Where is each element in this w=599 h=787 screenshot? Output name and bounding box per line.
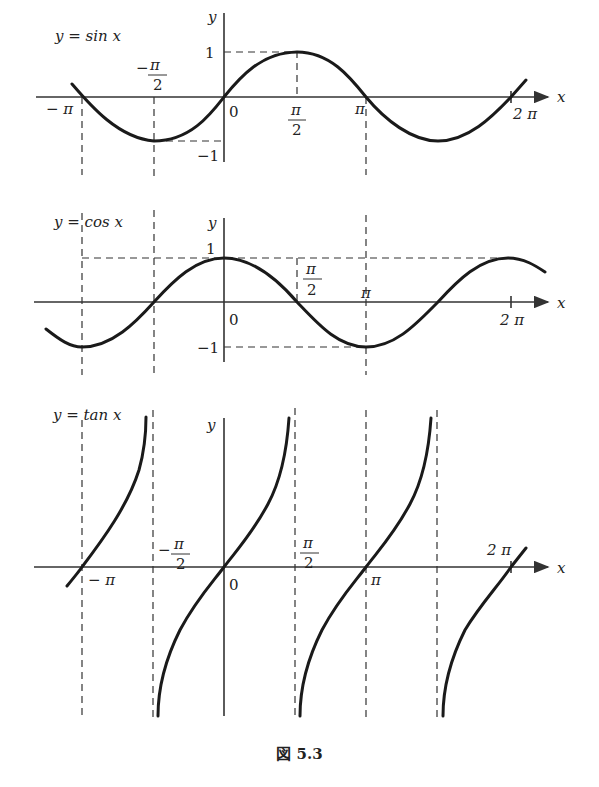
svg-text:π: π: [173, 535, 185, 553]
cos-ytick-neg1: −1: [197, 339, 219, 357]
sin-xtick-0: 0: [229, 103, 239, 121]
tan-xtick-pi: π: [370, 571, 382, 589]
svg-text:π: π: [290, 101, 302, 119]
sin-xtick-neg-half-pi: − π 2: [136, 56, 167, 94]
svg-text:π: π: [302, 534, 314, 552]
tan-x-label: x: [557, 559, 566, 577]
cos-x-label: x: [557, 294, 566, 312]
cos-title: y = cos x: [53, 213, 123, 231]
svg-text:−: −: [136, 59, 149, 77]
svg-text:2: 2: [153, 76, 163, 94]
tan-branch-4: [443, 548, 526, 716]
sin-title: y = sin x: [54, 27, 122, 45]
cos-xtick-2pi: 2 π: [499, 311, 525, 329]
svg-text:2: 2: [307, 281, 317, 299]
svg-text:π: π: [149, 56, 161, 74]
sin-xtick-half-pi: π 2: [288, 101, 306, 139]
figure-caption: 図 5.3: [0, 742, 599, 763]
cos-xtick-half-pi: π 2: [303, 260, 322, 299]
cos-xtick-0: 0: [229, 311, 239, 329]
trig-figure: y = sin x y x 1 −1 0 − π π 2 π − π 2 π 2: [0, 0, 599, 787]
sin-xtick-neg-pi: − π: [46, 100, 74, 118]
cos-xtick-pi: π: [360, 284, 372, 302]
tan-xtick-0: 0: [229, 576, 239, 594]
cos-panel: y = cos x y x 1 −1 0 π 2 π π 2: [34, 210, 566, 375]
sin-y-label: y: [207, 8, 217, 26]
tan-xtick-neg-pi: − π: [88, 571, 116, 589]
sin-max-guide: [224, 52, 297, 97]
tan-branch-1: [67, 417, 146, 586]
sin-panel: y = sin x y x 1 −1 0 − π π 2 π − π 2 π 2: [36, 8, 566, 178]
svg-text:2: 2: [292, 121, 302, 139]
sin-xtick-pi: π: [354, 100, 366, 118]
tan-panel: y = tan x y x 0 − π π 2 π − π 2 π 2: [34, 406, 566, 718]
svg-text:−: −: [158, 541, 171, 559]
sin-xtick-2pi: 2 π: [512, 105, 538, 123]
cos-ytick-1: 1: [206, 240, 216, 258]
sin-ytick-1: 1: [205, 44, 215, 62]
tan-xtick-2pi: 2 π: [486, 541, 512, 559]
cos-y-label: y: [207, 214, 217, 232]
svg-text:2: 2: [176, 555, 186, 573]
svg-text:2: 2: [304, 554, 314, 572]
sin-ytick-neg1: −1: [197, 147, 219, 165]
tan-title: y = tan x: [52, 406, 122, 424]
svg-text:π: π: [305, 260, 317, 278]
sin-x-label: x: [557, 88, 566, 106]
tan-y-label: y: [206, 416, 216, 434]
